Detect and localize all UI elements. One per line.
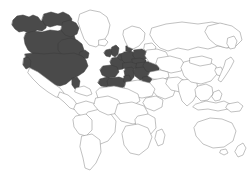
- world-map-figure: [0, 0, 248, 177]
- world-map-svg: [0, 0, 248, 177]
